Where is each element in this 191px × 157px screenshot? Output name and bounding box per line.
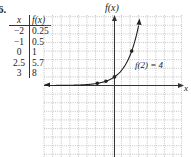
- curve-top-arrow-icon: [137, 18, 142, 25]
- curve-left-arrow-icon: [44, 83, 50, 88]
- x-axis-label: x: [183, 83, 188, 93]
- data-point: [113, 75, 117, 79]
- annotation-label: f(2) = 4: [135, 60, 164, 70]
- exponential-curve: [46, 26, 139, 86]
- data-point: [96, 82, 100, 86]
- function-graph: f(x) x f(2) = 4: [0, 0, 191, 157]
- data-point: [104, 79, 108, 83]
- data-point: [130, 49, 134, 53]
- y-axis-label: f(x): [105, 2, 120, 14]
